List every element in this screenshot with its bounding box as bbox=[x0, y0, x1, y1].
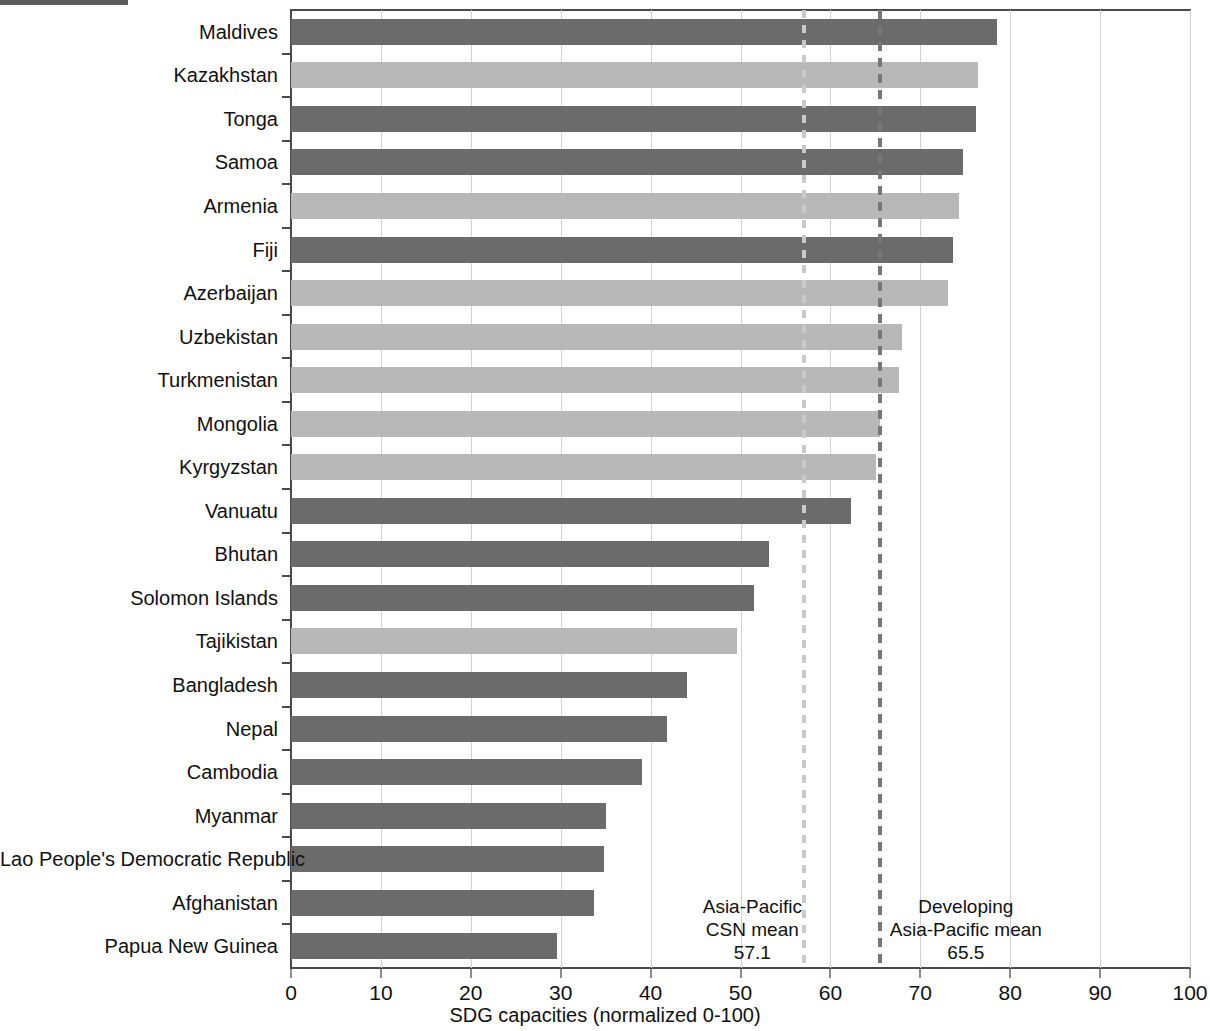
x-axis-tick bbox=[1189, 969, 1191, 978]
bar-bangladesh bbox=[291, 672, 687, 698]
y-axis-tick bbox=[282, 488, 291, 490]
bar-fiji bbox=[291, 237, 953, 263]
bar-row bbox=[291, 628, 1190, 654]
y-axis-tick bbox=[282, 270, 291, 272]
gridline-100 bbox=[1190, 10, 1191, 968]
y-axis-tick bbox=[282, 619, 291, 621]
y-axis-label: Armenia bbox=[0, 196, 278, 216]
bar-kyrgyzstan bbox=[291, 454, 876, 480]
bar-mongolia bbox=[291, 411, 880, 437]
y-axis-label: Myanmar bbox=[0, 806, 278, 826]
bar-row bbox=[291, 716, 1190, 742]
bar-maldives bbox=[291, 19, 997, 45]
bar-row bbox=[291, 454, 1190, 480]
y-axis-label: Kyrgyzstan bbox=[0, 457, 278, 477]
y-axis-label: Vanuatu bbox=[0, 501, 278, 521]
y-axis-tick bbox=[282, 96, 291, 98]
x-axis-tick-label: 100 bbox=[1172, 981, 1207, 1005]
x-axis-tick-label: 70 bbox=[909, 981, 932, 1005]
y-axis-tick bbox=[282, 793, 291, 795]
bar-row bbox=[291, 411, 1190, 437]
bar-cambodia bbox=[291, 759, 642, 785]
bar-row bbox=[291, 367, 1190, 393]
y-axis-tick bbox=[282, 183, 291, 185]
bar-row bbox=[291, 759, 1190, 785]
bar-solomon-islands bbox=[291, 585, 754, 611]
x-axis-tick bbox=[740, 969, 742, 978]
x-axis-tick-label: 30 bbox=[549, 981, 572, 1005]
x-axis-tick-label: 0 bbox=[285, 981, 297, 1005]
y-axis-label: Lao People's Democratic Republic bbox=[0, 849, 278, 869]
bar-row bbox=[291, 62, 1190, 88]
y-axis-label: Nepal bbox=[0, 719, 278, 739]
y-axis-tick bbox=[282, 880, 291, 882]
reference-annotation-asia-pacific-csn-mean: Asia-PacificCSN mean57.1 bbox=[703, 895, 802, 964]
bar-row bbox=[291, 541, 1190, 567]
bar-uzbekistan bbox=[291, 324, 902, 350]
bar-turkmenistan bbox=[291, 367, 899, 393]
x-axis-tick bbox=[1009, 969, 1011, 978]
x-axis-tick-label: 10 bbox=[369, 981, 392, 1005]
bar-row bbox=[291, 280, 1190, 306]
reference-label-line: Asia-Pacific mean bbox=[890, 918, 1042, 941]
x-axis-tick bbox=[290, 969, 292, 978]
y-axis-tick bbox=[282, 314, 291, 316]
y-axis-label: Azerbaijan bbox=[0, 283, 278, 303]
reference-line-developing-asia-pacific-mean bbox=[878, 10, 882, 968]
y-axis-label: Uzbekistan bbox=[0, 327, 278, 347]
sdg-capacities-bar-chart: Asia-PacificCSN mean57.1DevelopingAsia-P… bbox=[0, 0, 1210, 1031]
bar-afghanistan bbox=[291, 890, 594, 916]
x-axis-tick bbox=[560, 969, 562, 978]
bar-bhutan bbox=[291, 541, 769, 567]
bar-row bbox=[291, 149, 1190, 175]
y-axis-label: Maldives bbox=[0, 22, 278, 42]
y-axis-label: Samoa bbox=[0, 152, 278, 172]
bar-myanmar bbox=[291, 803, 606, 829]
x-axis-tick bbox=[650, 969, 652, 978]
y-axis-label: Tajikistan bbox=[0, 631, 278, 651]
bar-tonga bbox=[291, 106, 976, 132]
y-axis-tick bbox=[282, 227, 291, 229]
bar-row bbox=[291, 193, 1190, 219]
y-axis-label: Fiji bbox=[0, 240, 278, 260]
reference-label-line: CSN mean bbox=[703, 918, 802, 941]
bar-vanuatu bbox=[291, 498, 851, 524]
bar-azerbaijan bbox=[291, 280, 948, 306]
y-axis-label: Afghanistan bbox=[0, 893, 278, 913]
bar-row bbox=[291, 846, 1190, 872]
y-axis-tick bbox=[282, 749, 291, 751]
reference-value: 65.5 bbox=[890, 941, 1042, 964]
x-axis-tick bbox=[1099, 969, 1101, 978]
y-axis-label: Kazakhstan bbox=[0, 65, 278, 85]
bar-papua-new-guinea bbox=[291, 933, 557, 959]
x-axis-title: SDG capacities (normalized 0-100) bbox=[0, 1004, 1210, 1027]
bar-row bbox=[291, 672, 1190, 698]
reference-label-line: Developing bbox=[890, 895, 1042, 918]
y-axis-tick bbox=[282, 923, 291, 925]
bar-row bbox=[291, 237, 1190, 263]
plot-area bbox=[291, 10, 1190, 968]
bar-kazakhstan bbox=[291, 62, 978, 88]
y-axis-tick bbox=[282, 53, 291, 55]
y-axis-tick bbox=[282, 140, 291, 142]
bar-armenia bbox=[291, 193, 959, 219]
y-axis-label: Tonga bbox=[0, 109, 278, 129]
bar-nepal bbox=[291, 716, 667, 742]
y-axis-label: Solomon Islands bbox=[0, 588, 278, 608]
x-axis-tick-label: 50 bbox=[729, 981, 752, 1005]
x-axis-tick bbox=[829, 969, 831, 978]
y-axis-tick bbox=[282, 836, 291, 838]
y-axis-tick bbox=[282, 532, 291, 534]
bar-row bbox=[291, 498, 1190, 524]
bar-row bbox=[291, 803, 1190, 829]
y-axis-label: Mongolia bbox=[0, 414, 278, 434]
x-axis-tick-label: 40 bbox=[639, 981, 662, 1005]
y-axis-label: Bangladesh bbox=[0, 675, 278, 695]
bar-row bbox=[291, 106, 1190, 132]
bar-row bbox=[291, 324, 1190, 350]
y-axis-label: Cambodia bbox=[0, 762, 278, 782]
y-axis-label: Turkmenistan bbox=[0, 370, 278, 390]
bar-tajikistan bbox=[291, 628, 737, 654]
reference-value: 57.1 bbox=[703, 941, 802, 964]
reference-label-line: Asia-Pacific bbox=[703, 895, 802, 918]
